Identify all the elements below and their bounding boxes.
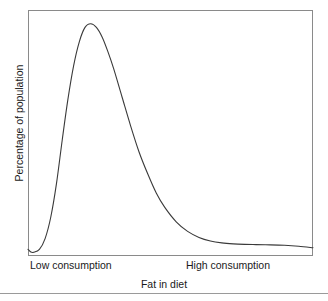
x-tick-label-high: High consumption: [186, 259, 270, 271]
distribution-curve: [28, 24, 313, 253]
bottom-divider: [0, 293, 328, 294]
y-axis-label: Percentage of population: [13, 38, 25, 208]
x-tick-label-low: Low consumption: [30, 259, 112, 271]
x-axis-label: Fat in diet: [0, 278, 328, 290]
figure: Percentage of population Low consumption…: [0, 0, 328, 301]
distribution-curve-svg: [28, 10, 313, 256]
